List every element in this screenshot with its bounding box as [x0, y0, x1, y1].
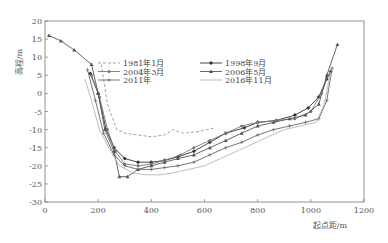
x-tick-label: 600 [197, 206, 212, 215]
x-tick-label: 1000 [301, 206, 321, 215]
x-axis-title: 起点距/m [313, 221, 348, 230]
series-layer [47, 33, 339, 178]
y-tick-label: -25 [29, 180, 42, 189]
series-line [92, 75, 329, 166]
y-tick-label: 20 [32, 17, 42, 26]
marker-diamond [209, 61, 213, 65]
x-tick-label: 200 [91, 206, 106, 215]
x-tick-label: 400 [144, 206, 159, 215]
y-tick-label: -10 [29, 126, 42, 135]
legend-item-0: 1981年1月 [98, 58, 164, 68]
marker-circle [137, 164, 140, 167]
y-tick-label: -20 [29, 162, 42, 171]
marker-triangle [72, 48, 76, 52]
legend-item-4: 2011年 [98, 75, 151, 85]
legend-label: 2004年3月 [123, 67, 164, 77]
axes-layer: 02004006008001000120020151050-5-10-15-20… [29, 17, 374, 215]
chart-canvas: 02004006008001000120020151050-5-10-15-20… [0, 0, 388, 243]
y-tick-label: 15 [32, 35, 42, 44]
plot-frame [45, 21, 364, 202]
y-tick-label: -15 [29, 144, 42, 153]
marker-circle [256, 121, 259, 124]
marker-triangle [47, 33, 51, 37]
legend-label: 2016年11月 [225, 75, 272, 85]
x-tick-label: 800 [250, 206, 265, 215]
y-tick-label: 5 [37, 71, 42, 80]
marker-diamond [136, 160, 140, 164]
marker-triangle [335, 43, 339, 47]
legend-item-1: 1998年9月 [200, 58, 266, 68]
x-tick-label: 1200 [354, 206, 374, 215]
marker-circle [179, 153, 182, 156]
legend-label: 1981年1月 [123, 58, 164, 68]
y-axis-title: 高程/m [14, 48, 24, 75]
marker-diamond [293, 113, 297, 117]
marker-circle [108, 70, 111, 73]
legend-label: 2006年5月 [225, 67, 266, 77]
marker-circle [192, 146, 195, 149]
y-tick-label: 0 [37, 89, 42, 98]
y-tick-label: 10 [32, 53, 42, 62]
legend: 1981年1月1998年9月2004年3月2006年5月2011年2016年11… [98, 58, 272, 85]
marker-circle [208, 139, 211, 142]
marker-circle [90, 74, 93, 77]
marker-circle [240, 124, 243, 127]
marker-triangle [317, 102, 321, 106]
y-tick-label: -5 [34, 108, 42, 117]
legend-label: 2011年 [123, 75, 151, 85]
legend-label: 1998年9月 [225, 58, 266, 68]
legend-item-5: 2016年11月 [200, 75, 272, 85]
legend-item-3: 2006年5月 [200, 67, 266, 77]
legend-item-2: 2004年3月 [98, 67, 164, 77]
series-3 [47, 33, 339, 178]
marker-circle [224, 132, 227, 135]
y-tick-label: -30 [29, 198, 42, 207]
x-tick-label: 0 [42, 206, 47, 215]
marker-diamond [192, 149, 196, 153]
